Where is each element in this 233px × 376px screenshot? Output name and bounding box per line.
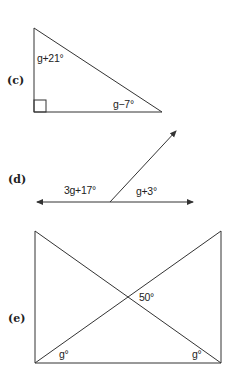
- angle-right-label: g+3°: [136, 185, 157, 197]
- right-triangle: [34, 28, 162, 112]
- part-d-label: (d): [8, 173, 26, 186]
- angle-left-label: 3g+17°: [64, 184, 96, 196]
- part-e: (e) 50° g° g°: [8, 231, 221, 363]
- angle-bottom-right-label: g°: [192, 348, 202, 360]
- angle-intersection-label: 50°: [139, 291, 154, 303]
- part-e-label: (e): [8, 312, 25, 325]
- right-angle-marker: [34, 100, 46, 112]
- geometry-diagram: (c) g+21° g−7° (d) 3g+17° g+3° (e) 50° g…: [0, 0, 233, 376]
- angle-bottom-right-label: g−7°: [113, 98, 134, 110]
- angle-bottom-left-label: g°: [59, 348, 69, 360]
- part-d: (d) 3g+17° g+3°: [8, 131, 193, 202]
- angle-top-label: g+21°: [37, 52, 63, 64]
- part-c-label: (c): [7, 74, 24, 87]
- part-c: (c) g+21° g−7°: [7, 28, 162, 112]
